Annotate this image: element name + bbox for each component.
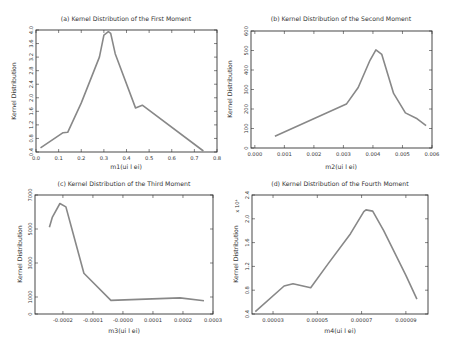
y-tick-label: 0 bbox=[27, 312, 33, 315]
y-tick-label: 100 bbox=[243, 124, 249, 134]
plot-frame bbox=[252, 195, 428, 314]
y-tick-label: 400 bbox=[243, 65, 249, 75]
y-tick-label: 3000 bbox=[27, 256, 33, 269]
x-tick-label: -0.0001 bbox=[83, 317, 103, 323]
x-tick-label: 0.7 bbox=[190, 155, 198, 161]
y-tick-label: 2.4 bbox=[28, 79, 34, 88]
y-tick-label: 300 bbox=[243, 85, 249, 95]
y-tick-label: 1.6 bbox=[28, 107, 34, 115]
x-tick-label: 0.0002 bbox=[174, 317, 192, 323]
x-tick-label: 0.2 bbox=[77, 155, 85, 161]
x-axis-label: m2(ui l ei) bbox=[325, 163, 357, 170]
x-axis-label: m1(ui l ei) bbox=[110, 163, 142, 170]
y-tick-label: 1.2 bbox=[244, 262, 250, 270]
kernel-density-curve bbox=[275, 50, 426, 136]
x-tick-label: 0.004 bbox=[366, 151, 382, 157]
y-tick-label: 2.4 bbox=[244, 190, 250, 199]
y-axis-label: Kernel Distribution bbox=[226, 60, 233, 118]
y-tick-label: 7000 bbox=[27, 188, 33, 201]
y-tick-label: 0.8 bbox=[244, 286, 250, 294]
y-tick-label: 0.8 bbox=[28, 134, 34, 142]
x-tick-label: 0.005 bbox=[395, 151, 410, 157]
kernel-density-curve bbox=[41, 32, 204, 151]
x-axis-label: m3(ui l ei) bbox=[108, 327, 140, 334]
x-tick-label: 0.6 bbox=[168, 155, 176, 161]
x-tick-label: 0.000 bbox=[247, 151, 262, 157]
y-tick-label: 600 bbox=[243, 26, 249, 36]
y-tick-label: 2.0 bbox=[28, 94, 34, 102]
y-axis-label: Kernel Distribution bbox=[16, 225, 23, 283]
y-tick-label: 500 bbox=[243, 46, 249, 56]
y-tick-label: 1.2 bbox=[28, 121, 34, 129]
y-axis-label: Kernel Distribution bbox=[232, 225, 239, 283]
panel-b-second-moment: (b) Kernel Distribution of the Second Mo… bbox=[226, 15, 439, 170]
x-tick-label: 0.006 bbox=[425, 151, 440, 157]
x-tick-label: 0.001 bbox=[277, 151, 292, 157]
panel-title: (b) Kernel Distribution of the Second Mo… bbox=[271, 15, 412, 22]
panel-title: (d) Kernel Distribution of the Fourth Mo… bbox=[271, 180, 409, 187]
y-tick-label: 3.6 bbox=[28, 39, 34, 47]
y-tick-label: 0.4 bbox=[244, 309, 250, 318]
x-tick-label: 0.00007 bbox=[351, 317, 372, 323]
y-axis-multiplier: x 10⁴ bbox=[234, 199, 240, 212]
x-tick-label: -0.0000 bbox=[113, 317, 133, 323]
y-tick-label: 0 bbox=[243, 146, 249, 149]
x-tick-label: -0.0002 bbox=[53, 317, 73, 323]
panel-title: (c) Kernel Distribution of the Third Mom… bbox=[58, 180, 191, 187]
panel-c-third-moment: (c) Kernel Distribution of the Third Mom… bbox=[16, 180, 222, 334]
x-tick-label: 0.3 bbox=[100, 155, 108, 161]
x-tick-label: 0.00009 bbox=[395, 317, 416, 323]
x-tick-label: 0.4 bbox=[122, 155, 131, 161]
x-tick-label: 0.0001 bbox=[144, 317, 162, 323]
y-tick-label: 1000 bbox=[27, 290, 33, 303]
x-tick-label: 0.1 bbox=[55, 155, 63, 161]
plot-frame bbox=[251, 31, 432, 148]
x-tick-label: 0.5 bbox=[145, 155, 153, 161]
x-tick-label: 0.00003 bbox=[262, 317, 283, 323]
y-tick-label: 3.2 bbox=[28, 53, 34, 61]
y-axis-label: Kernel Distribution bbox=[10, 62, 17, 120]
y-tick-label: 1.6 bbox=[244, 238, 250, 246]
y-tick-label: 200 bbox=[243, 104, 249, 114]
figure-kernel-distributions: (a) Kernel Distribution of the First Mom… bbox=[0, 0, 450, 349]
y-tick-label: 4.0 bbox=[28, 26, 34, 34]
x-tick-label: 0.002 bbox=[306, 151, 321, 157]
panel-title: (a) Kernel Distribution of the First Mom… bbox=[61, 15, 192, 22]
y-tick-label: 5000 bbox=[27, 222, 33, 235]
x-tick-label: 0.8 bbox=[213, 155, 221, 161]
plot-frame bbox=[36, 30, 217, 152]
kernel-density-curve bbox=[49, 204, 204, 301]
y-tick-label: 2.8 bbox=[28, 67, 34, 75]
plot-frame bbox=[35, 195, 213, 314]
x-tick-label: 0.0003 bbox=[204, 317, 222, 323]
x-tick-label: 0.00005 bbox=[307, 317, 328, 323]
y-tick-label: 0.4 bbox=[28, 147, 34, 156]
y-tick-label: 2.0 bbox=[244, 215, 250, 223]
x-tick-label: 0.003 bbox=[336, 151, 351, 157]
x-axis-label: m4(ui l ei) bbox=[324, 327, 356, 334]
panel-a-first-moment: (a) Kernel Distribution of the First Mom… bbox=[10, 15, 221, 170]
panel-d-fourth-moment: (d) Kernel Distribution of the Fourth Mo… bbox=[232, 180, 428, 334]
kernel-density-curve bbox=[255, 210, 417, 312]
